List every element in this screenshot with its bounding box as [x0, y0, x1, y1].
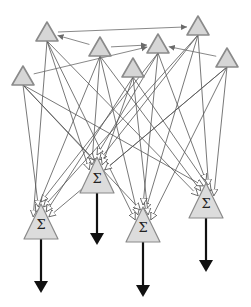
sum-node-sum1: Σ [24, 204, 58, 239]
input-neuron-in7 [216, 48, 238, 67]
sum-node-sum2: Σ [80, 157, 114, 193]
lateral-edge-in2-in4 [111, 45, 147, 47]
input-neuron-in2 [89, 37, 111, 56]
edge-in3-sum1 [23, 85, 38, 207]
output-arrows [41, 193, 206, 291]
edge-in6-sum4 [133, 77, 211, 191]
sigma-label: Σ [138, 220, 147, 235]
edge-in4-sum3 [143, 53, 158, 205]
edge-in1-sum2 [47, 41, 89, 170]
input-neuron-in6 [122, 58, 144, 77]
edge-in7-sum4 [214, 67, 227, 196]
sigma-label: Σ [201, 196, 210, 211]
input-neuron-in3 [12, 66, 34, 85]
input-neuron-in5 [187, 16, 209, 35]
lateral-edge-in7-in4 [169, 47, 216, 57]
lateral-edge-in2-in1 [58, 35, 90, 44]
sigma-label: Σ [92, 171, 101, 186]
edge-in6-sum3 [133, 77, 148, 215]
input-neuron-in4 [147, 34, 169, 53]
neural-network-diagram: ΣΣΣΣ [0, 0, 251, 307]
sum-node-sum4: Σ [189, 183, 223, 218]
input-neuron-in1 [36, 22, 58, 41]
connection-edges [23, 35, 227, 220]
lateral-edge-in1-in5 [58, 27, 187, 32]
sigma-label: Σ [36, 217, 45, 232]
edge-in3-sum4 [23, 85, 203, 186]
edge-in6-sum2 [102, 77, 133, 165]
edge-in7-sum3 [151, 67, 227, 220]
